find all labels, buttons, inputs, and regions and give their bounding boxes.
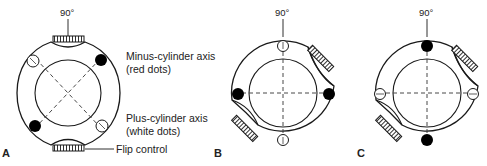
flip-dial-lower-c	[376, 115, 402, 141]
panel-b: 90° B	[214, 7, 335, 159]
inner-lens-a	[35, 60, 101, 126]
flip-control-label: Flip control	[116, 143, 167, 155]
degree-label-b: 90°	[275, 7, 290, 18]
degree-label-c: 90°	[419, 7, 434, 18]
panel-c: 90° C	[357, 7, 479, 159]
panel-label-c: C	[357, 147, 365, 159]
flip-dial-top-a	[53, 36, 84, 42]
cross-cylinder-diagram: 90° Minus-cylinder axis (red dots) Plus-…	[0, 0, 487, 166]
minus-axis-label: Minus-cylinder axis	[126, 50, 215, 62]
filled-dot-right-b	[323, 88, 335, 100]
panel-a: 90° Minus-cylinder axis (red dots) Plus-…	[2, 7, 215, 159]
filled-dot-left-b	[232, 88, 244, 100]
plus-axis-sublabel: (white dots)	[126, 125, 180, 137]
plus-axis-label: Plus-cylinder axis	[126, 112, 208, 124]
flip-dial-lower-b	[232, 115, 258, 141]
panel-label-b: B	[214, 147, 222, 159]
flip-control-dial-a	[53, 145, 84, 151]
degree-label-a: 90°	[60, 7, 75, 18]
panel-label-a: A	[2, 147, 10, 159]
minus-axis-sublabel: (red dots)	[126, 63, 171, 75]
filled-dot-top-c	[421, 40, 433, 52]
filled-dot-bottom-c	[421, 134, 433, 146]
filled-dot-lower-left-a	[29, 120, 41, 132]
filled-dot-upper-right-a	[95, 54, 107, 66]
